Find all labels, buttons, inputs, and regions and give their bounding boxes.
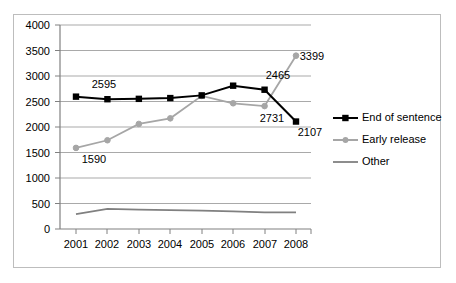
x-tick-2002: 2002 <box>95 238 119 250</box>
chart-legend: End of sentence Early release Other <box>333 111 442 167</box>
x-axis-labels: 2001 2002 2003 2004 2005 2006 2007 2008 <box>64 238 308 250</box>
data-label-1590: 1590 <box>82 153 106 165</box>
x-tick-2005: 2005 <box>190 238 214 250</box>
x-tick-marks <box>76 229 311 234</box>
series-other <box>76 209 296 214</box>
y-tick-500: 500 <box>32 198 50 210</box>
y-axis-labels: 4000 3500 3000 2500 2000 1500 1000 500 0 <box>26 19 50 235</box>
x-tick-2004: 2004 <box>158 238 182 250</box>
line-chart: 4000 3500 3000 2500 2000 1500 1000 500 0… <box>0 0 456 283</box>
data-label-2107: 2107 <box>298 126 322 138</box>
y-tick-1500: 1500 <box>26 147 50 159</box>
x-tick-2003: 2003 <box>127 238 151 250</box>
legend-item-other[interactable]: Other <box>333 155 390 167</box>
legend-marker-square-icon <box>342 115 348 121</box>
y-tick-3000: 3000 <box>26 70 50 82</box>
y-tick-4000: 4000 <box>26 19 50 31</box>
chart-container: 4000 3500 3000 2500 2000 1500 1000 500 0… <box>0 0 456 283</box>
legend-marker-circle-icon <box>343 137 349 143</box>
data-label-2595: 2595 <box>92 78 116 90</box>
x-tick-2007: 2007 <box>253 238 277 250</box>
y-tick-2500: 2500 <box>26 96 50 108</box>
y-tick-0: 0 <box>44 223 50 235</box>
data-label-2465: 2465 <box>266 69 290 81</box>
legend-label-early-release: Early release <box>362 133 426 145</box>
data-label-3399: 3399 <box>300 50 324 62</box>
x-tick-2006: 2006 <box>221 238 245 250</box>
y-tick-marks <box>55 25 60 229</box>
legend-item-end-of-sentence[interactable]: End of sentence <box>333 111 442 123</box>
data-label-2731: 2731 <box>260 112 284 124</box>
y-tick-2000: 2000 <box>26 121 50 133</box>
legend-label-end-of-sentence: End of sentence <box>362 111 442 123</box>
legend-item-early-release[interactable]: Early release <box>333 133 426 145</box>
legend-label-other: Other <box>362 155 390 167</box>
x-tick-2008: 2008 <box>284 238 308 250</box>
y-tick-1000: 1000 <box>26 172 50 184</box>
x-tick-2001: 2001 <box>64 238 88 250</box>
y-tick-3500: 3500 <box>26 45 50 57</box>
